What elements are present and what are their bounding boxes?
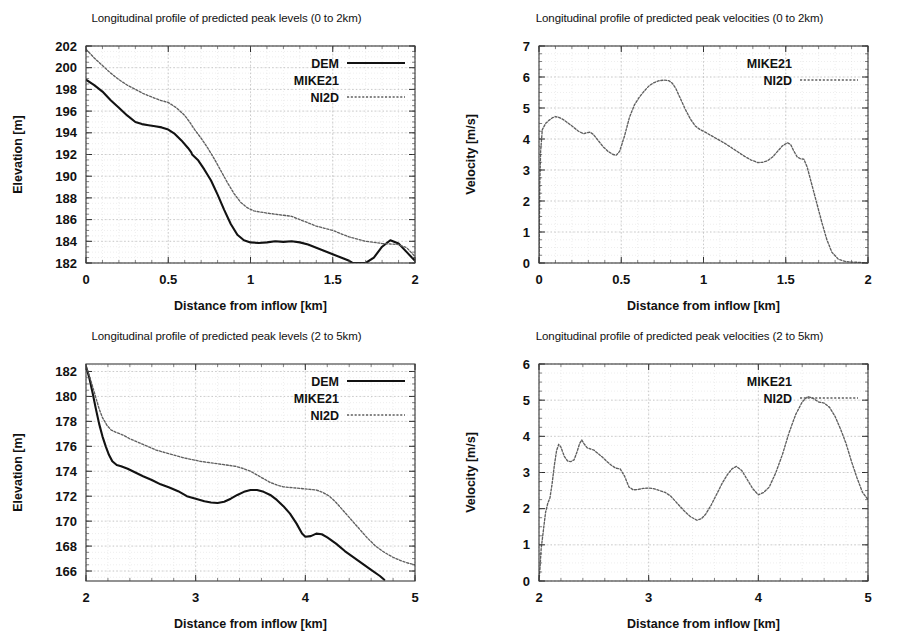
y-tick-label: 3 [523, 465, 530, 480]
chart-title: Longitudinal profile of predicted peak v… [536, 12, 824, 24]
x-tick-label: 1.5 [777, 272, 795, 287]
x-tick-label: 5 [864, 590, 871, 605]
grid-minor [539, 46, 868, 263]
x-axis-title: Distance from inflow [km] [174, 299, 327, 313]
x-tick-label: 2 [411, 272, 418, 287]
legend-label-ni2d: NI2D [764, 74, 792, 88]
y-tick-label: 7 [523, 39, 530, 54]
x-tick-label: 1 [247, 272, 254, 287]
x-tick-label: 0.5 [159, 272, 177, 287]
series-line-ni2d [539, 397, 868, 581]
y-tick-label: 176 [55, 439, 77, 454]
y-tick-label: 180 [55, 389, 77, 404]
y-tick-label: 1 [523, 537, 530, 552]
y-tick-label: 2 [523, 501, 530, 516]
y-tick-label: 196 [55, 104, 77, 119]
x-tick-label: 2 [535, 590, 542, 605]
legend-label-mike21: MIKE21 [747, 375, 792, 389]
y-axis-title: Velocity [m/s] [464, 432, 478, 513]
panel-peak-velocities-2-5km: Longitudinal profile of predicted peak v… [453, 318, 906, 635]
x-tick-label: 1 [700, 272, 707, 287]
legend-label-mike21: MIKE21 [747, 57, 792, 71]
chart-title: Longitudinal profile of predicted peak l… [92, 12, 362, 24]
y-tick-label: 5 [523, 393, 530, 408]
x-tick-label: 0 [535, 272, 542, 287]
y-tick-label: 200 [55, 60, 77, 75]
x-tick-label: 3 [192, 590, 199, 605]
y-tick-label: 182 [55, 256, 77, 271]
legend-label-ni2d: NI2D [311, 409, 339, 423]
x-tick-label: 4 [755, 590, 763, 605]
chart-title: Longitudinal profile of predicted peak l… [92, 330, 362, 342]
y-tick-label: 6 [523, 357, 530, 372]
x-axis-title: Distance from inflow [km] [174, 617, 327, 631]
y-axis-title: Velocity [m/s] [464, 114, 478, 195]
y-tick-label: 5 [523, 101, 530, 116]
legend-label-dem: DEM [311, 57, 339, 71]
chart-svg-peak-velocities-2-5km: Longitudinal profile of predicted peak v… [453, 318, 906, 635]
y-tick-label: 178 [55, 414, 77, 429]
y-tick-label: 202 [55, 39, 77, 54]
x-axis-title: Distance from inflow [km] [627, 617, 780, 631]
legend-label-mike21: MIKE21 [294, 392, 339, 406]
x-tick-label: 5 [411, 590, 418, 605]
panel-peak-velocities-0-2km: Longitudinal profile of predicted peak v… [453, 0, 906, 318]
y-tick-label: 172 [55, 489, 77, 504]
y-tick-label: 184 [55, 234, 77, 249]
y-tick-label: 182 [55, 364, 77, 379]
y-tick-label: 168 [55, 539, 77, 554]
y-tick-label: 174 [55, 464, 77, 479]
y-tick-label: 170 [55, 514, 77, 529]
x-tick-label: 0.5 [612, 272, 630, 287]
y-axis-title: Elevation [m] [11, 433, 25, 512]
y-tick-label: 166 [55, 564, 77, 579]
series-group [86, 366, 415, 579]
x-tick-label: 3 [645, 590, 652, 605]
legend-label-dem: DEM [311, 375, 339, 389]
y-tick-label: 4 [523, 132, 531, 147]
panel-peak-levels-0-2km: Longitudinal profile of predicted peak l… [0, 0, 453, 318]
y-tick-label: 0 [523, 256, 530, 271]
x-tick-label: 0 [82, 272, 89, 287]
y-axis-title: Elevation [m] [11, 115, 25, 194]
y-tick-label: 6 [523, 70, 530, 85]
x-tick-label: 1.5 [324, 272, 342, 287]
y-tick-label: 1 [523, 225, 530, 240]
y-tick-label: 4 [523, 429, 531, 444]
longitudinal-profiles-figure: Longitudinal profile of predicted peak l… [0, 0, 906, 635]
legend-label-mike21: MIKE21 [294, 74, 339, 88]
x-axis-title: Distance from inflow [km] [627, 299, 780, 313]
panel-peak-levels-2-5km: Longitudinal profile of predicted peak l… [0, 318, 453, 635]
y-tick-label: 190 [55, 169, 77, 184]
legend-label-ni2d: NI2D [764, 392, 792, 406]
x-tick-label: 2 [82, 590, 89, 605]
legend-label-ni2d: NI2D [311, 91, 339, 105]
chart-svg-peak-velocities-0-2km: Longitudinal profile of predicted peak v… [453, 0, 906, 318]
chart-svg-peak-levels-2-5km: Longitudinal profile of predicted peak l… [0, 318, 453, 635]
y-tick-label: 194 [55, 125, 77, 140]
series-group [539, 397, 868, 581]
chart-svg-peak-levels-0-2km: Longitudinal profile of predicted peak l… [0, 0, 453, 318]
x-tick-label: 2 [864, 272, 871, 287]
y-tick-label: 0 [523, 574, 530, 589]
y-tick-label: 198 [55, 82, 77, 97]
chart-title: Longitudinal profile of predicted peak v… [536, 330, 824, 342]
x-tick-label: 4 [302, 590, 310, 605]
series-line-dem [86, 366, 384, 579]
y-tick-label: 188 [55, 191, 77, 206]
y-tick-label: 2 [523, 194, 530, 209]
y-tick-label: 3 [523, 163, 530, 178]
y-tick-label: 192 [55, 147, 77, 162]
y-tick-label: 186 [55, 212, 77, 227]
